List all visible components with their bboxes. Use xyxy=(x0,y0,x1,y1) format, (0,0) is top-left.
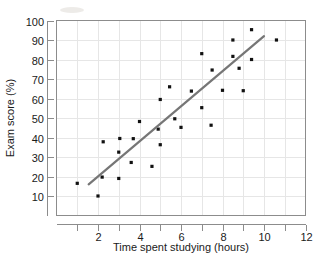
y-tick-label: 90 xyxy=(32,35,44,47)
y-tick-label: 70 xyxy=(32,74,44,86)
y-tick-label: 40 xyxy=(32,133,44,145)
data-point xyxy=(132,137,135,140)
data-point xyxy=(130,161,133,164)
x-tick-label: 12 xyxy=(300,231,312,243)
x-tick-label: 10 xyxy=(258,231,270,243)
data-point xyxy=(76,182,79,185)
data-point xyxy=(231,38,234,41)
scatter-chart: 102030405060708090100 24681012 Time spen… xyxy=(0,0,321,262)
data-point xyxy=(250,28,253,31)
data-point xyxy=(159,143,162,146)
data-point xyxy=(157,128,160,131)
scan-artifact xyxy=(60,7,84,13)
data-point xyxy=(159,98,162,101)
y-tick-label: 20 xyxy=(32,172,44,184)
y-tick-label: 60 xyxy=(32,94,44,106)
data-point xyxy=(250,58,253,61)
data-point xyxy=(138,120,141,123)
y-tick-label: 50 xyxy=(32,113,44,125)
data-point xyxy=(200,52,203,55)
data-point xyxy=(102,140,105,143)
data-point xyxy=(96,194,99,197)
x-axis-title: Time spent studying (hours) xyxy=(113,241,249,253)
y-tick-label: 30 xyxy=(32,152,44,164)
data-point xyxy=(101,175,104,178)
data-point xyxy=(150,165,153,168)
data-point xyxy=(117,177,120,180)
y-tick-label: 10 xyxy=(32,191,44,203)
data-point xyxy=(190,89,193,92)
data-point xyxy=(118,137,121,140)
data-point xyxy=(209,124,212,127)
data-point xyxy=(211,68,214,71)
x-tick-label: 2 xyxy=(95,231,101,243)
data-point xyxy=(275,38,278,41)
data-point xyxy=(173,117,176,120)
data-point xyxy=(242,89,245,92)
data-point xyxy=(231,55,234,58)
data-point xyxy=(200,106,203,109)
data-point xyxy=(179,126,182,129)
data-point xyxy=(238,67,241,70)
chart-svg: 102030405060708090100 24681012 Time spen… xyxy=(0,0,321,262)
y-tick-label: 80 xyxy=(32,55,44,67)
data-point xyxy=(221,89,224,92)
y-tick-label: 100 xyxy=(26,16,44,28)
y-axis-title: Exam score (%) xyxy=(4,79,16,157)
data-point xyxy=(117,151,120,154)
data-point xyxy=(168,85,171,88)
